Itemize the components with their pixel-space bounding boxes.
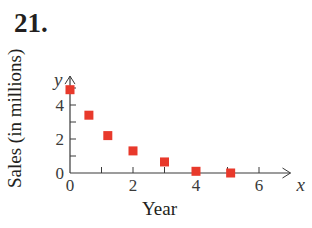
scatter-plot: 0246024xy	[0, 0, 312, 228]
y-axis-symbol: y	[52, 69, 63, 90]
data-point	[84, 111, 93, 120]
x-tick-label: 6	[255, 176, 264, 195]
data-point	[103, 131, 112, 140]
x-tick-label: 0	[66, 176, 75, 195]
data-point	[129, 146, 138, 155]
y-tick-label: 2	[56, 130, 65, 149]
data-point	[226, 169, 235, 178]
y-tick-label: 0	[56, 164, 65, 183]
x-tick-label: 2	[129, 176, 138, 195]
data-point	[160, 157, 169, 166]
data-point	[66, 85, 75, 94]
x-tick-label: 4	[192, 176, 201, 195]
y-tick-label: 4	[56, 96, 65, 115]
data-point	[192, 167, 201, 176]
x-axis-symbol: x	[296, 174, 306, 195]
